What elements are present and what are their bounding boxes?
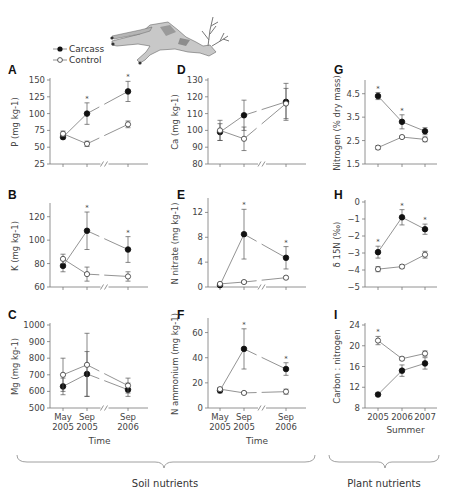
y-axis-label: P (mg kg-1) [10, 97, 20, 147]
control-data-point [125, 274, 130, 279]
series-carcass: ** [60, 204, 131, 272]
y-tick-label: 75 [34, 125, 45, 135]
axis-break-mark [105, 406, 108, 411]
y-axis-label: Nitrogen (% dry mass) [332, 75, 342, 171]
series-carcass [217, 83, 289, 140]
control-data-point [241, 279, 246, 284]
y-tick-label: 500 [29, 403, 45, 413]
y-tick-label: 80 [34, 259, 45, 269]
y-axis-label: Mg (mg kg-1) [10, 338, 20, 395]
x-tick-label: Sep [120, 412, 136, 422]
y-tick-label: −2 [347, 231, 360, 241]
y-tick-label: 12 [192, 207, 203, 217]
control-data-point [283, 275, 288, 280]
series-carcass: ** [217, 321, 289, 393]
legend-label-control: Control [69, 55, 102, 65]
series-control [217, 387, 288, 396]
x-tick-label: Sep [236, 412, 252, 422]
y-tick-label: 25 [34, 159, 45, 169]
y-axis-label: δ 15N (‰) [332, 222, 342, 268]
control-data-point [241, 136, 246, 141]
y-tick-label: 40 [192, 353, 203, 363]
y-axis-label: N ammonium (mg kg-1) [170, 313, 180, 415]
y-tick-label: 600 [29, 386, 45, 396]
y-tick-label: 130 [187, 75, 203, 85]
control-data-point [217, 281, 222, 286]
y-tick-label: 0 [198, 403, 203, 413]
panel-i: I812162024Carbon : nitrogen200520062007S… [332, 308, 437, 435]
carcass-data-point [375, 249, 381, 255]
significance-marker: * [242, 321, 246, 329]
control-data-point [125, 383, 130, 388]
x-tick-label: 2005 [76, 422, 98, 432]
panel-letter: D [177, 63, 186, 77]
carcass-data-point [422, 128, 428, 134]
y-tick-label: 0 [355, 197, 360, 207]
figure: Carcass Control A255075100125150P (mg kg… [0, 0, 455, 496]
y-tick-label: 4 [198, 257, 203, 267]
x-tick-label: 2006 [117, 422, 139, 432]
x-tick-label: 2005 [367, 412, 389, 422]
significance-marker: * [376, 238, 380, 246]
legend: Carcass Control [53, 44, 104, 65]
carcass-data-point [375, 93, 381, 99]
y-tick-label: 110 [187, 109, 203, 119]
y-axis-label: K (mg kg-1) [10, 221, 20, 271]
deer-carcass-illustration [110, 17, 229, 65]
y-tick-label: 20 [349, 341, 360, 351]
axis-break-mark [101, 162, 104, 167]
series-control: * [375, 328, 427, 361]
series-control [217, 88, 288, 150]
panel-letter: A [8, 63, 17, 77]
control-data-point [84, 362, 89, 367]
series-carcass [375, 358, 428, 398]
carcass-data-point [241, 231, 247, 237]
control-data-point [125, 122, 130, 127]
y-tick-label: 12 [349, 382, 360, 392]
axis-break-mark [101, 285, 104, 290]
control-data-point [217, 128, 222, 133]
carcass-data-point [241, 112, 247, 118]
significance-marker: * [242, 201, 246, 209]
y-tick-label: 90 [192, 142, 203, 152]
soil-nutrients-brace: Soil nutrients [17, 455, 315, 489]
panel-letter: I [334, 308, 337, 322]
panel-d: D8090100110120130Ca (mg kg-1) [170, 63, 306, 169]
x-axis-label: Time [87, 436, 110, 446]
series-carcass: *** [375, 202, 428, 258]
carcass-data-point [84, 228, 90, 234]
y-tick-label: 8 [355, 403, 360, 413]
x-tick-label: Sep [278, 412, 294, 422]
carcass-data-point [283, 366, 289, 372]
y-tick-label: 900 [29, 337, 45, 347]
group-label-soil-nutrients: Soil nutrients [132, 478, 198, 489]
significance-marker: * [284, 355, 288, 363]
y-tick-label: 1.5 [346, 159, 360, 169]
panel-f: F0204060N ammonium (mg kg-1)May2005Sep20… [170, 308, 306, 446]
carcass-data-point [125, 247, 131, 253]
x-tick-label: 2005 [209, 422, 231, 432]
panel-letter: B [8, 188, 17, 202]
series-control [60, 254, 130, 281]
control-data-point [84, 272, 89, 277]
y-tick-label: 120 [29, 212, 45, 222]
carcass-data-point [399, 368, 405, 374]
y-tick-label: 50 [34, 142, 45, 152]
significance-marker: * [376, 85, 380, 93]
y-tick-label: 24 [349, 320, 360, 330]
x-axis-label: Time [245, 436, 268, 446]
series-control [375, 251, 427, 271]
control-data-point [60, 131, 65, 136]
significance-marker: * [400, 107, 404, 115]
y-tick-label: 1000 [23, 320, 45, 330]
significance-marker: * [126, 229, 130, 237]
control-data-point [60, 372, 65, 377]
carcass-data-point [399, 215, 405, 221]
x-tick-label: 2006 [275, 422, 297, 432]
panel-g: G1.52.53.54.5Nitrogen (% dry mass)** [332, 63, 437, 171]
legend-item-carcass: Carcass [53, 44, 104, 54]
y-tick-label: 700 [29, 370, 45, 380]
y-axis-label: Ca (mg kg-1) [170, 94, 180, 150]
series-carcass: ** [375, 85, 428, 135]
series-control [60, 121, 130, 147]
